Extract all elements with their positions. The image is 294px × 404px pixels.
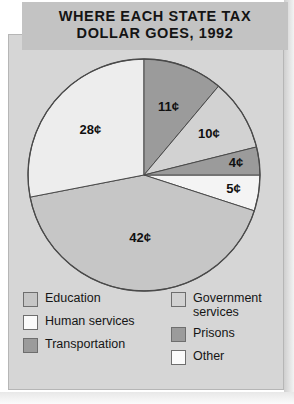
scan-page: 5¢42¢28¢11¢10¢4¢ EducationHuman services… xyxy=(0,0,294,404)
legend-item-human-services[interactable]: Human services xyxy=(23,314,173,330)
legend-item-other[interactable]: Other xyxy=(171,349,281,365)
pie-label-prisons: 4¢ xyxy=(229,155,243,170)
legend-swatch-prisons xyxy=(171,327,186,342)
scan-edge-shadow-bottom xyxy=(0,392,294,404)
legend-column-right: Government servicesPrisonsOther xyxy=(171,291,281,372)
pie-label-other: 5¢ xyxy=(226,181,240,196)
pie-label-human-services: 28¢ xyxy=(79,122,101,137)
legend: EducationHuman servicesTransportation Go… xyxy=(9,291,285,387)
legend-label-prisons: Prisons xyxy=(193,326,235,340)
legend-label-transportation: Transportation xyxy=(45,337,125,351)
legend-item-prisons[interactable]: Prisons xyxy=(171,326,281,342)
legend-swatch-government-services xyxy=(171,292,186,307)
legend-swatch-human-services xyxy=(23,315,38,330)
legend-column-left: EducationHuman servicesTransportation xyxy=(23,291,173,360)
pie-chart-svg: 5¢42¢28¢11¢10¢4¢ xyxy=(24,55,264,295)
pie-chart: 5¢42¢28¢11¢10¢4¢ xyxy=(24,55,264,295)
legend-label-education: Education xyxy=(45,291,101,305)
title-line-1: WHERE EACH STATE TAX xyxy=(59,8,251,24)
legend-label-other: Other xyxy=(193,349,224,363)
legend-swatch-transportation xyxy=(23,338,38,353)
pie-label-transportation: 11¢ xyxy=(158,99,179,114)
legend-label-human-services: Human services xyxy=(45,314,135,328)
title-banner: WHERE EACH STATE TAX DOLLAR GOES, 1992 xyxy=(22,2,288,50)
pie-label-government-services: 10¢ xyxy=(198,126,220,141)
chart-panel: 5¢42¢28¢11¢10¢4¢ EducationHuman services… xyxy=(8,34,284,390)
title-line-2: DOLLAR GOES, 1992 xyxy=(22,25,288,42)
pie-slice-group xyxy=(28,59,260,291)
scan-edge-shadow-right xyxy=(284,0,294,404)
page-title: WHERE EACH STATE TAX DOLLAR GOES, 1992 xyxy=(22,8,288,42)
legend-item-government-services[interactable]: Government services xyxy=(171,291,281,319)
legend-item-education[interactable]: Education xyxy=(23,291,173,307)
legend-swatch-education xyxy=(23,292,38,307)
legend-swatch-other xyxy=(171,350,186,365)
pie-label-education: 42¢ xyxy=(129,230,151,245)
legend-item-transportation[interactable]: Transportation xyxy=(23,337,173,353)
legend-label-government-services: Government services xyxy=(193,291,262,319)
